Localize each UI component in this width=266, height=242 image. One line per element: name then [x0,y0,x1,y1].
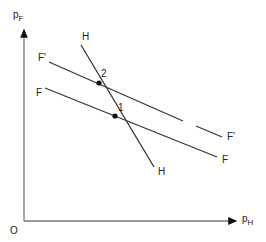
equilibrium-point-1 [112,113,117,118]
f-prime-label-left: F' [38,53,46,63]
equilibrium-point-2 [96,80,101,85]
f-label-right: F [222,155,228,165]
f-prime-curve-solid [49,62,183,121]
point-2-label: 2 [101,69,107,79]
f-prime-label-right: F' [227,132,235,142]
y-axis-label: pF [13,10,23,23]
f-label-left: F [36,88,42,98]
diagram-canvas [0,0,266,242]
point-1-label: 1 [118,103,124,113]
h-curve-label-bottom: H [158,167,165,177]
h-curve-label-top: H [82,32,89,42]
x-axis-label: pH [242,214,253,227]
f-prime-curve-dash [196,126,222,137]
origin-label: O [10,226,18,236]
